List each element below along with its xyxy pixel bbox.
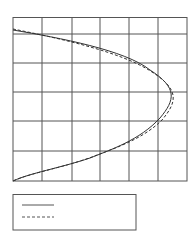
legend [13,195,136,231]
chart [0,0,194,238]
series-solid-line [13,30,171,181]
series-dashed-line [13,29,173,181]
plot-grid [13,18,187,182]
